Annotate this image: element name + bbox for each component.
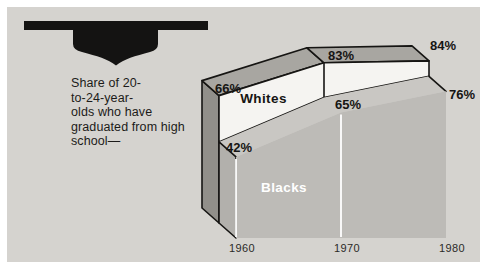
graduation-area-chart: 66%83%84%42%65%76%WhitesBlacks1960197019… — [0, 0, 487, 272]
whites-point-label: 84% — [430, 38, 456, 53]
whites-point-label: 66% — [215, 81, 241, 96]
blacks-point-label: 65% — [335, 97, 361, 112]
year-axis-label: 1960 — [229, 242, 255, 254]
blacks-point-label: 42% — [226, 140, 252, 155]
blacks-point-label: 76% — [449, 87, 475, 102]
blacks-series-label: Blacks — [261, 180, 307, 195]
whites-point-label: 83% — [328, 48, 354, 63]
whites-top-surface — [307, 46, 429, 63]
blacks-left-endcap — [219, 142, 236, 238]
whites-series-label: Whites — [240, 91, 287, 106]
year-axis-label: 1970 — [334, 242, 360, 254]
whites-left-wall — [202, 81, 219, 223]
year-axis-label: 1980 — [439, 242, 465, 254]
